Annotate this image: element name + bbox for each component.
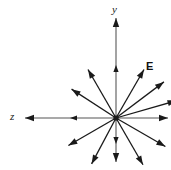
y-axis-up-mid-arrowhead (113, 65, 118, 72)
vector-8-arrowhead (136, 155, 143, 164)
y-axis-down-mid-arrowhead (113, 137, 118, 144)
y-axis-label: y (112, 4, 117, 15)
origin-node (113, 115, 118, 120)
y-axis-up-arrowhead (113, 18, 119, 27)
vector-4-arrowhead (88, 70, 95, 79)
vector-2-arrowhead (155, 82, 164, 90)
z-axis-left-mid-arrowhead (70, 115, 77, 120)
z-axis-label: z (10, 111, 14, 122)
vector-field-figure: y z E (0, 0, 171, 170)
z-axis-left-arrowhead (25, 115, 34, 121)
vector-1-arrowhead (137, 70, 144, 79)
vector-7-arrowhead (92, 155, 99, 164)
vector-9-arrowhead (156, 139, 165, 146)
vector-field-canvas (0, 0, 171, 170)
y-axis-down-arrowhead (113, 153, 119, 162)
vector-5-arrowhead (72, 89, 81, 97)
z-axis-right-arrowhead (159, 115, 168, 121)
electric-field-label: E (146, 61, 153, 72)
vector-6-arrowhead (68, 138, 77, 145)
